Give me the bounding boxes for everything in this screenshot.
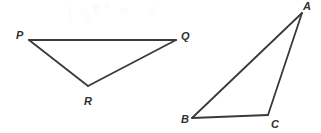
scan-artifact-5	[120, 8, 129, 13]
vertex-label-p: P	[16, 30, 23, 41]
triangle-abc-edge-AB	[192, 13, 302, 118]
vertex-label-r: R	[84, 96, 92, 107]
vertex-label-a: A	[303, 1, 311, 12]
scan-artifact-4	[104, 2, 110, 8]
shape-layer	[29, 13, 302, 118]
vertex-label-c: C	[271, 119, 279, 130]
triangle-pqr	[29, 40, 176, 86]
vertex-label-q: Q	[181, 31, 190, 42]
scan-artifact-3	[86, 14, 91, 22]
geometry-figure: PQRABC	[0, 0, 321, 133]
triangle-pqr-edge-RP	[29, 40, 88, 86]
vertex-label-b: B	[181, 114, 189, 125]
scan-artifact-0	[68, 6, 71, 15]
scan-artifact-6	[150, 6, 155, 13]
triangle-pqr-edge-QR	[88, 40, 176, 86]
triangle-abc-edge-BC	[192, 115, 268, 118]
figure-canvas	[0, 0, 321, 133]
scan-artifact-2	[92, 3, 100, 15]
triangle-abc	[192, 13, 302, 118]
scan-artifact-7	[69, 19, 72, 25]
